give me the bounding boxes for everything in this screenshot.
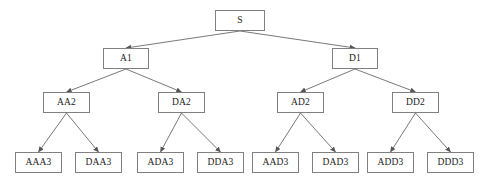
edges-group bbox=[39, 31, 451, 152]
tree-node-label: AAA3 bbox=[25, 158, 51, 168]
tree-node-ddd3: DDD3 bbox=[427, 152, 474, 173]
tree-node-label: ADA3 bbox=[147, 158, 173, 168]
tree-node-label: AAD3 bbox=[262, 158, 288, 168]
tree-edge-a1-to-aa2 bbox=[67, 69, 127, 92]
tree-edge-aa2-to-aaa3 bbox=[39, 113, 67, 152]
tree-node-label: ADD3 bbox=[377, 158, 403, 168]
tree-node-daa3: DAA3 bbox=[75, 152, 122, 173]
tree-node-aad3: AAD3 bbox=[252, 152, 299, 173]
tree-node-label: D1 bbox=[349, 54, 361, 64]
tree-node-aa2: AA2 bbox=[43, 92, 90, 113]
tree-node-aaa3: AAA3 bbox=[15, 152, 62, 173]
tree-edge-dd2-to-ddd3 bbox=[416, 113, 451, 152]
tree-edge-aa2-to-daa3 bbox=[67, 113, 99, 152]
tree-node-label: DA2 bbox=[172, 98, 191, 108]
tree-node-label: DAA3 bbox=[85, 158, 111, 168]
tree-node-da2: DA2 bbox=[158, 92, 205, 113]
tree-node-label: AA2 bbox=[57, 98, 76, 108]
tree-edge-ad2-to-dad3 bbox=[301, 113, 336, 152]
tree-node-label: DD2 bbox=[406, 98, 425, 108]
tree-node-d1: D1 bbox=[332, 48, 378, 69]
tree-edge-a1-to-da2 bbox=[126, 69, 182, 92]
tree-edge-d1-to-ad2 bbox=[301, 69, 356, 92]
tree-node-ada3: ADA3 bbox=[137, 152, 184, 173]
tree-node-label: DAD3 bbox=[322, 158, 348, 168]
tree-edge-dd2-to-add3 bbox=[391, 113, 416, 152]
tree-node-label: DDA3 bbox=[207, 158, 233, 168]
tree-node-s: S bbox=[215, 10, 265, 31]
tree-node-dda3: DDA3 bbox=[197, 152, 244, 173]
tree-node-ad2: AD2 bbox=[277, 92, 324, 113]
tree-edge-ad2-to-aad3 bbox=[276, 113, 301, 152]
tree-node-label: A1 bbox=[120, 54, 132, 64]
tree-edge-da2-to-dda3 bbox=[182, 113, 221, 152]
tree-node-a1: A1 bbox=[103, 48, 149, 69]
tree-node-add3: ADD3 bbox=[367, 152, 414, 173]
tree-edge-s-to-a1 bbox=[126, 31, 240, 48]
tree-node-label: DDD3 bbox=[437, 158, 463, 168]
tree-edge-d1-to-dd2 bbox=[355, 69, 416, 92]
tree-node-dd2: DD2 bbox=[392, 92, 439, 113]
tree-node-label: AD2 bbox=[291, 98, 310, 108]
tree-edge-s-to-d1 bbox=[240, 31, 355, 48]
tree-node-label: S bbox=[237, 16, 242, 26]
tree-node-dad3: DAD3 bbox=[312, 152, 359, 173]
tree-edge-da2-to-ada3 bbox=[161, 113, 182, 152]
tree-diagram: SA1D1AA2DA2AD2DD2AAA3DAA3ADA3DDA3AAD3DAD… bbox=[0, 0, 484, 183]
